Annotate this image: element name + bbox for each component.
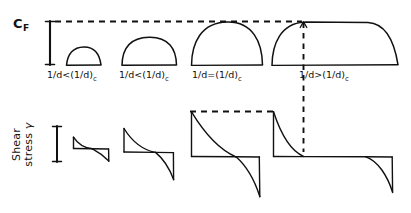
concentration-dome-1 <box>67 47 102 65</box>
figure-container: CF 1/d<(1/d)c 1/d<(1/d)c 1/d=(1/d)c 1/d>… <box>0 0 411 213</box>
condition-label-4: 1/d>(1/d)c <box>299 70 349 83</box>
shear-stress-profile-3 <box>192 112 260 197</box>
figure-drawing <box>0 0 411 213</box>
top-axis <box>46 21 55 65</box>
shear-axis-label-line2: stress γ <box>23 109 35 181</box>
cf-label-subscript: F <box>23 23 29 33</box>
condition-label-3-text: 1/d=(1/d) <box>192 69 238 80</box>
condition-label-1-text: 1/d<(1/d) <box>47 69 93 80</box>
condition-label-4-subscript: c <box>345 75 349 83</box>
condition-label-3-subscript: c <box>238 75 242 83</box>
cf-axis-label: CF <box>13 17 29 33</box>
shear-axis-label-symbol: γ <box>22 122 35 129</box>
condition-label-1-subscript: c <box>93 75 97 83</box>
shear-axis <box>53 126 62 162</box>
condition-label-4-text: 1/d>(1/d) <box>299 69 345 80</box>
condition-label-2-subscript: c <box>165 75 169 83</box>
shear-stress-profile-1 <box>74 137 109 161</box>
condition-label-1: 1/d<(1/d)c <box>47 70 97 83</box>
condition-label-2-text: 1/d<(1/d) <box>119 69 165 80</box>
cf-label-main: C <box>13 16 23 31</box>
concentration-dome-4-clipped <box>272 22 398 65</box>
dome-baselines <box>67 65 399 66</box>
concentration-dome-3 <box>192 22 263 65</box>
shear-axis-label-line2-text: stress <box>22 133 35 167</box>
condition-label-3: 1/d=(1/d)c <box>192 70 242 83</box>
condition-label-2: 1/d<(1/d)c <box>119 70 169 83</box>
shear-stress-axis-label: Shear stress γ <box>11 109 34 181</box>
shear-stress-profile-2 <box>124 129 174 180</box>
concentration-dome-2 <box>122 37 177 65</box>
shear-stress-profile-4 <box>274 112 393 193</box>
